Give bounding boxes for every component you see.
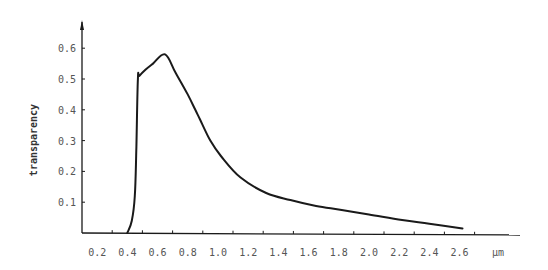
- x-tick-label: 0.8: [179, 247, 197, 258]
- y-axis-label: transparency: [28, 104, 39, 176]
- y-tick-label: 0.2: [58, 166, 76, 177]
- y-axis-arrow-icon: [80, 20, 84, 30]
- x-tick-label: 2.6: [451, 247, 469, 258]
- x-tick-label: 2.2: [390, 247, 408, 258]
- y-tick-label: 0.5: [58, 74, 76, 85]
- x-axis: [82, 233, 520, 235]
- x-tick-label: 1.8: [330, 247, 348, 258]
- x-tick-label: 0.4: [118, 247, 136, 258]
- y-tick-label: 0.6: [58, 43, 76, 54]
- x-tick-label: 1.0: [209, 247, 227, 258]
- x-tick-label: 1.6: [300, 247, 318, 258]
- transparency-curve: [127, 54, 462, 233]
- x-tick-label: 1.2: [239, 247, 257, 258]
- y-ticks: 0.10.20.30.40.50.6: [58, 43, 85, 208]
- x-tick-label: 2.4: [420, 247, 438, 258]
- y-tick-label: 0.1: [58, 197, 76, 208]
- transparency-chart: 0.10.20.30.40.50.6 0.20.40.60.81.01.21.4…: [0, 0, 548, 270]
- x-tick-label: 1.4: [269, 247, 287, 258]
- x-tick-label: 0.6: [149, 247, 167, 258]
- y-tick-label: 0.3: [58, 136, 76, 147]
- x-tick-label: 0.2: [88, 247, 106, 258]
- x-tick-label: 2.0: [360, 247, 378, 258]
- y-tick-label: 0.4: [58, 105, 76, 116]
- x-axis-unit-label: µm: [492, 247, 504, 258]
